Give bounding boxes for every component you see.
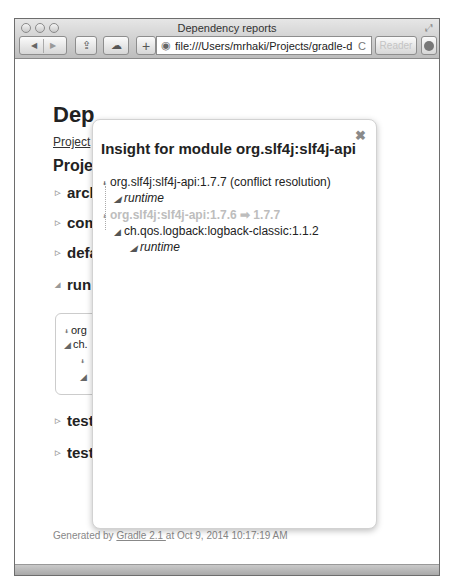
configuration-testCompile[interactable]: ▷ test — [55, 412, 94, 429]
tree-node[interactable]: ◢runtime — [114, 191, 164, 205]
tree-arrow-icon: ⍖ — [80, 356, 85, 366]
tree-node[interactable]: ◢ch. — [64, 338, 88, 350]
configuration-archives[interactable]: ▷ arcl — [55, 184, 94, 201]
footer-timestamp: at Oct 9, 2014 10:17:19 AM — [166, 530, 288, 541]
configuration-label: run — [67, 276, 91, 293]
share-button[interactable]: ⇪ — [75, 36, 97, 55]
window-title: Dependency reports — [15, 22, 439, 34]
configuration-testRuntime[interactable]: ▷ test — [55, 444, 94, 461]
tree-arrow-icon: ◢ — [64, 340, 71, 350]
collapsed-triangle-icon: ▷ — [55, 219, 67, 227]
footer-prefix: Generated by — [53, 530, 116, 541]
collapsed-triangle-icon: ▷ — [55, 189, 67, 197]
collapsed-triangle-icon: ▷ — [55, 417, 67, 425]
close-icon[interactable]: ✖ — [355, 128, 366, 143]
collapsed-triangle-icon: ▷ — [55, 249, 67, 257]
configuration-label: arcl — [67, 184, 94, 201]
forward-button[interactable]: ▶ — [50, 41, 56, 50]
title-bar: Dependency reports ⤢ ◀ ▶ ⇪ ☁ + ◉ file://… — [15, 19, 439, 59]
modal-title: Insight for module org.slf4j:slf4j-api — [101, 140, 356, 157]
globe-icon: ◉ — [161, 39, 171, 52]
reader-button[interactable]: Reader — [375, 36, 417, 55]
back-button[interactable]: ◀ — [31, 41, 37, 50]
status-bar — [15, 564, 439, 575]
tree-arrow-icon: ⍖ — [64, 326, 69, 336]
tree-node[interactable]: ⍖ — [80, 354, 87, 367]
plus-icon: + — [142, 38, 150, 54]
tree-node-evicted[interactable]: ⍖org.slf4j:slf4j-api:1.7.6 ➡ 1.7.7 — [102, 208, 280, 222]
tree-arrow-icon: ◢ — [80, 372, 87, 382]
download-icon — [424, 41, 434, 51]
configuration-label: test — [67, 412, 94, 429]
insight-modal: Insight for module org.slf4j:slf4j-api ✖… — [92, 119, 377, 529]
divider — [43, 39, 44, 53]
browser-window: Dependency reports ⤢ ◀ ▶ ⇪ ☁ + ◉ file://… — [14, 18, 440, 576]
section-title: Proje — [53, 157, 93, 175]
tree-arrow-icon: ◢ — [114, 227, 121, 237]
address-bar[interactable]: ◉ file:///Users/mrhaki/Projects/gradle-d… — [156, 36, 372, 55]
cloud-icon: ☁ — [111, 39, 122, 52]
toolbar: ◀ ▶ ⇪ ☁ + ◉ file:///Users/mrhaki/Project… — [19, 36, 435, 56]
tree-arrow-icon: ⍖ — [102, 211, 107, 221]
reload-icon[interactable]: C — [353, 40, 371, 52]
tree-node[interactable]: ◢ — [80, 370, 89, 382]
configuration-label: test — [67, 444, 94, 461]
page-title: Dep — [53, 102, 95, 128]
tree-node[interactable]: ◢ch.qos.logback:logback-classic:1.1.2 — [114, 224, 319, 238]
gradle-link[interactable]: Gradle 2.1 — [116, 530, 165, 541]
page-content: Dep Project Proje ▷ arcl ▷ com ▷ defa ◢ … — [15, 60, 439, 566]
tree-arrow-icon: ◢ — [114, 194, 121, 204]
back-forward-group: ◀ ▶ — [19, 36, 67, 55]
collapsed-triangle-icon: ▷ — [55, 449, 67, 457]
tree-node[interactable]: ⍖org.slf4j:slf4j-api:1.7.7 (conflict res… — [102, 175, 331, 189]
configuration-runtime[interactable]: ◢ run — [55, 276, 91, 293]
tree-arrow-icon: ◢ — [130, 243, 137, 253]
expanded-triangle-icon: ◢ — [55, 281, 67, 289]
url-text[interactable]: file:///Users/mrhaki/Projects/gradle-d — [175, 40, 353, 52]
icloud-tabs-button[interactable]: ☁ — [103, 36, 129, 55]
tree-node[interactable]: ⍖org — [64, 324, 87, 337]
fullscreen-icon[interactable]: ⤢ — [425, 22, 433, 34]
project-link[interactable]: Project — [53, 135, 90, 149]
tree-arrow-icon: ⍖ — [102, 178, 107, 188]
share-icon: ⇪ — [82, 39, 91, 52]
downloads-button[interactable] — [421, 36, 437, 55]
new-tab-button[interactable]: + — [136, 36, 156, 55]
tree-node[interactable]: ◢runtime — [130, 240, 180, 254]
footer: Generated by Gradle 2.1 at Oct 9, 2014 1… — [53, 530, 288, 541]
